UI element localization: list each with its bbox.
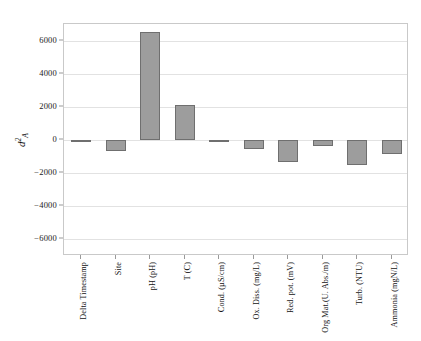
x-axis-tick-mark: [391, 255, 392, 259]
bar: [71, 140, 91, 142]
gridline: [64, 173, 407, 174]
bar: [140, 32, 160, 140]
x-axis-tick-mark: [287, 255, 288, 259]
x-axis-tick-label: Turb. (NTU): [355, 262, 364, 305]
gridline: [64, 206, 407, 207]
x-axis-tick-mark: [356, 255, 357, 259]
y-axis-tick-label: −6000: [34, 233, 57, 243]
gridline: [64, 239, 407, 240]
y-axis-tick-label: 6000: [39, 35, 57, 45]
x-axis-tick-mark: [115, 255, 116, 259]
y-axis-tick-label: 4000: [39, 68, 57, 78]
bar: [106, 140, 126, 151]
gridline: [64, 74, 407, 75]
x-axis-tick-mark: [184, 255, 185, 259]
x-axis-tick-mark: [322, 255, 323, 259]
y-axis-tick-label: 0: [53, 134, 57, 144]
y-axis: 6000400020000−2000−4000−6000: [0, 0, 63, 341]
bar: [209, 140, 229, 142]
x-axis-tick-label: Site: [113, 262, 122, 275]
bar: [244, 140, 264, 149]
gridline: [64, 107, 407, 108]
x-axis-tick-label: Red. pot. (mV): [286, 262, 295, 313]
y-axis-tick-label: −4000: [34, 200, 57, 210]
chart-figure: d2A 6000400020000−2000−4000−6000 Delta T…: [0, 0, 421, 341]
x-axis-tick-mark: [218, 255, 219, 259]
x-axis-tick-label: T (C): [182, 262, 191, 280]
x-axis-tick-mark: [80, 255, 81, 259]
x-axis-tick-label: pH (pH): [148, 262, 157, 290]
x-axis-tick-label: Org Mat.(U. Abs./m): [320, 262, 329, 333]
bar: [382, 140, 402, 154]
gridline: [64, 41, 407, 42]
plot-area: [63, 23, 408, 255]
y-axis-tick-label: −2000: [34, 167, 57, 177]
x-axis-tick-label: Cond. (µS/cm): [217, 262, 226, 312]
bar: [313, 140, 333, 146]
x-axis-tick-label: Delta Timestamp: [79, 262, 88, 320]
bar: [347, 140, 367, 165]
x-axis-tick-mark: [149, 255, 150, 259]
x-axis-tick-mark: [253, 255, 254, 259]
x-axis-tick-label: Ammonia (mgN/L): [389, 262, 398, 327]
x-axis-tick-label: Ox. Diss. (mg/L): [251, 262, 260, 320]
bar: [278, 140, 298, 162]
y-axis-tick-label: 2000: [39, 101, 57, 111]
bar: [175, 105, 195, 140]
